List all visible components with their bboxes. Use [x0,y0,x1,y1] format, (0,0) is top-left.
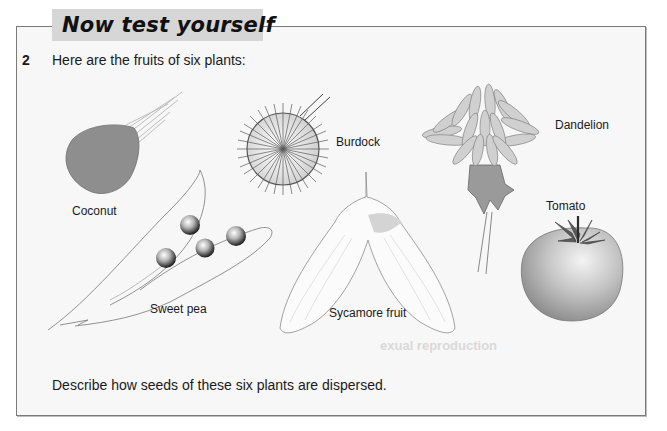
label-dandelion: Dandelion [555,118,609,132]
tomato-illustration [521,216,623,321]
dandelion-illustration [421,84,540,274]
sweet-pea-seeds [156,215,246,268]
label-coconut: Coconut [72,204,117,218]
label-burdock: Burdock [336,135,380,149]
question-task: Describe how seeds of these six plants a… [52,377,387,393]
label-tomato: Tomato [546,199,585,213]
coconut-illustration [66,92,182,193]
label-sweet-pea: Sweet pea [150,302,207,316]
burdock-illustration [237,94,330,195]
label-sycamore: Sycamore fruit [329,306,406,320]
